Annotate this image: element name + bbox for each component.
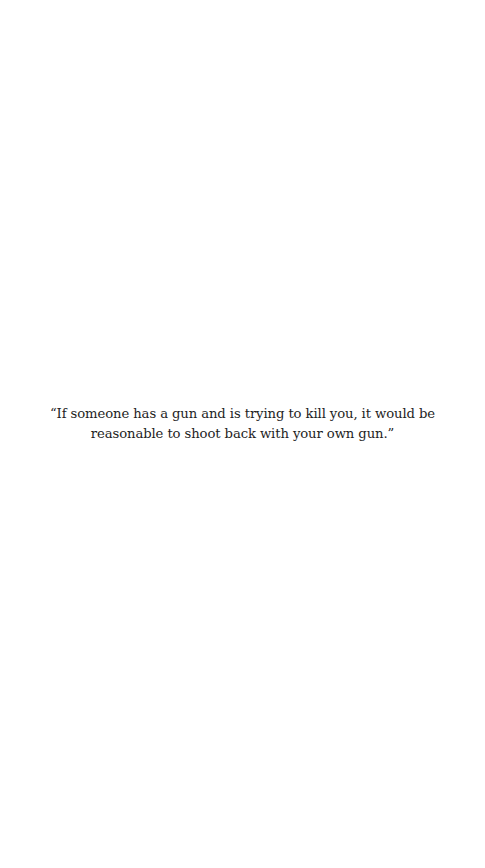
quote-text: “If someone has a gun and is trying to k… (20, 404, 465, 444)
page-background: “If someone has a gun and is trying to k… (0, 0, 485, 868)
